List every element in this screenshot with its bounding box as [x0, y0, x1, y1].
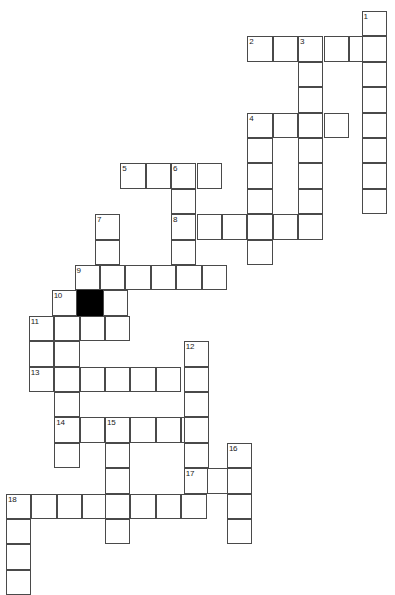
numbered-cell[interactable]: 4 [247, 113, 272, 138]
answer-cell[interactable] [80, 417, 105, 442]
answer-cell[interactable] [31, 494, 56, 519]
answer-cell[interactable] [273, 113, 298, 138]
numbered-cell[interactable]: 5 [120, 163, 145, 188]
answer-cell[interactable] [54, 341, 79, 366]
answer-cell[interactable] [54, 367, 79, 392]
numbered-cell[interactable]: 7 [95, 214, 120, 239]
numbered-cell[interactable]: 9 [75, 265, 100, 290]
clue-number-10: 10 [54, 291, 62, 300]
answer-cell[interactable] [125, 265, 150, 290]
answer-cell[interactable] [197, 214, 222, 239]
answer-cell[interactable] [247, 214, 272, 239]
answer-cell[interactable] [298, 189, 323, 214]
answer-cell[interactable] [362, 138, 387, 163]
numbered-cell[interactable]: 17 [184, 468, 209, 493]
answer-cell[interactable] [362, 87, 387, 112]
answer-cell[interactable] [54, 443, 79, 468]
answer-cell[interactable] [247, 163, 272, 188]
answer-cell[interactable] [95, 240, 120, 265]
answer-cell[interactable] [100, 265, 125, 290]
clue-number-12: 12 [186, 342, 194, 351]
answer-cell[interactable] [146, 163, 171, 188]
numbered-cell[interactable]: 14 [54, 417, 79, 442]
answer-cell[interactable] [298, 163, 323, 188]
answer-cell[interactable] [298, 87, 323, 112]
answer-cell[interactable] [362, 163, 387, 188]
answer-cell[interactable] [130, 494, 155, 519]
answer-cell[interactable] [184, 367, 209, 392]
answer-cell[interactable] [54, 392, 79, 417]
numbered-cell[interactable]: 11 [29, 316, 54, 341]
numbered-cell[interactable]: 3 [298, 36, 323, 61]
numbered-cell[interactable]: 8 [171, 214, 196, 239]
answer-cell[interactable] [222, 214, 247, 239]
clue-number-5: 5 [122, 164, 126, 173]
answer-cell[interactable] [247, 240, 272, 265]
answer-cell[interactable] [181, 494, 206, 519]
clue-number-14: 14 [56, 418, 64, 427]
answer-cell[interactable] [324, 113, 349, 138]
numbered-cell[interactable]: 15 [105, 417, 130, 442]
answer-cell[interactable] [54, 316, 79, 341]
answer-cell[interactable] [6, 519, 31, 544]
clue-number-6: 6 [173, 164, 177, 173]
answer-cell[interactable] [362, 113, 387, 138]
answer-cell[interactable] [273, 214, 298, 239]
answer-cell[interactable] [298, 138, 323, 163]
answer-cell[interactable] [57, 494, 82, 519]
answer-cell[interactable] [298, 113, 323, 138]
answer-cell[interactable] [298, 62, 323, 87]
numbered-cell[interactable]: 6 [171, 163, 196, 188]
answer-cell[interactable] [324, 36, 349, 61]
answer-cell[interactable] [227, 519, 252, 544]
answer-cell[interactable] [130, 417, 155, 442]
answer-cell[interactable] [105, 519, 130, 544]
answer-cell[interactable] [6, 544, 31, 569]
answer-cell[interactable] [130, 367, 155, 392]
answer-cell[interactable] [273, 36, 298, 61]
clue-number-11: 11 [31, 317, 39, 326]
answer-cell[interactable] [202, 265, 227, 290]
numbered-cell[interactable]: 18 [6, 494, 31, 519]
answer-cell[interactable] [80, 367, 105, 392]
clue-number-9: 9 [77, 266, 81, 275]
answer-cell[interactable] [105, 494, 130, 519]
answer-cell[interactable] [197, 163, 222, 188]
answer-cell[interactable] [156, 367, 181, 392]
answer-cell[interactable] [184, 417, 209, 442]
answer-cell[interactable] [105, 443, 130, 468]
clue-number-15: 15 [107, 418, 115, 427]
numbered-cell[interactable]: 12 [184, 341, 209, 366]
answer-cell[interactable] [362, 62, 387, 87]
answer-cell[interactable] [105, 367, 130, 392]
answer-cell[interactable] [171, 189, 196, 214]
answer-cell[interactable] [6, 570, 31, 595]
answer-cell[interactable] [29, 341, 54, 366]
answer-cell[interactable] [247, 189, 272, 214]
answer-cell[interactable] [80, 316, 105, 341]
clue-number-1: 1 [364, 12, 368, 21]
answer-cell[interactable] [227, 468, 252, 493]
answer-cell[interactable] [184, 443, 209, 468]
answer-cell[interactable] [171, 240, 196, 265]
answer-cell[interactable] [298, 214, 323, 239]
answer-cell[interactable] [247, 138, 272, 163]
numbered-cell[interactable]: 13 [29, 367, 54, 392]
numbered-cell[interactable]: 1 [362, 11, 387, 36]
answer-cell[interactable] [184, 392, 209, 417]
answer-cell[interactable] [105, 316, 130, 341]
answer-cell[interactable] [176, 265, 201, 290]
answer-cell[interactable] [362, 189, 387, 214]
answer-cell[interactable] [105, 468, 130, 493]
answer-cell[interactable] [227, 494, 252, 519]
answer-cell[interactable] [156, 417, 181, 442]
answer-cell[interactable] [156, 494, 181, 519]
numbered-cell[interactable]: 10 [52, 290, 77, 315]
answer-cell[interactable] [82, 494, 107, 519]
answer-cell[interactable] [103, 290, 128, 315]
answer-cell[interactable] [362, 36, 387, 61]
numbered-cell[interactable]: 2 [247, 36, 272, 61]
numbered-cell[interactable]: 16 [227, 443, 252, 468]
answer-cell[interactable] [151, 265, 176, 290]
